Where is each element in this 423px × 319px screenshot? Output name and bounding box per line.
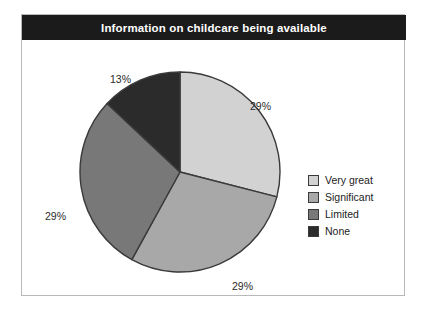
legend: Very great Significant Limited None <box>308 174 373 238</box>
legend-label-very-great: Very great <box>325 175 373 186</box>
legend-swatch-limited <box>308 209 319 220</box>
legend-label-limited: Limited <box>325 209 359 220</box>
legend-item-none[interactable]: None <box>308 225 373 238</box>
page-title: Information on childcare being available <box>101 22 327 34</box>
legend-item-limited[interactable]: Limited <box>308 208 373 221</box>
legend-item-significant[interactable]: Significant <box>308 191 373 204</box>
legend-swatch-very-great <box>308 175 319 186</box>
slice-label-none: 13% <box>110 73 131 85</box>
slice-label-significant: 29% <box>232 280 253 292</box>
slice-label-very-great: 29% <box>250 100 271 112</box>
legend-item-very-great[interactable]: Very great <box>308 174 373 187</box>
legend-swatch-none <box>308 226 319 237</box>
legend-label-none: None <box>325 226 350 237</box>
legend-label-significant: Significant <box>325 192 373 203</box>
legend-swatch-significant <box>308 192 319 203</box>
slice-label-limited: 29% <box>45 210 66 222</box>
chart-title-bar: Information on childcare being available <box>22 15 406 40</box>
chart-frame: Information on childcare being available… <box>21 14 405 296</box>
plot-area: 29% 29% 29% 13% Very great Significant L… <box>22 40 406 296</box>
